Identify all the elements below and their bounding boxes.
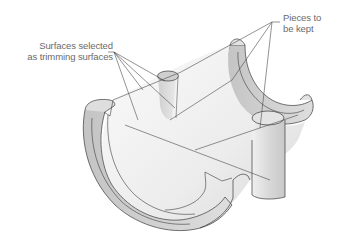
label-pieces-line1: Pieces to [283,12,321,23]
label-trimming-surfaces: Surfaces selected as trimming surfaces [20,40,113,62]
label-trimming-line2: as trimming surfaces [20,51,113,62]
label-pieces-line2: be kept [283,23,321,34]
label-pieces-kept: Pieces to be kept [283,12,321,34]
right-cylinder-stub [252,111,285,199]
diagram-canvas: Surfaces selected as trimming surfaces P… [0,0,341,248]
label-trimming-line1: Surfaces selected [20,40,113,51]
trimmed-pipe-illustration [0,0,341,248]
